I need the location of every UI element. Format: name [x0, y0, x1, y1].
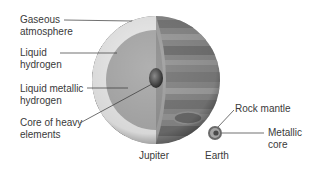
- label-liquid-hydrogen: Liquidhydrogen: [20, 47, 62, 71]
- label-rock-mantle: Rock mantle: [235, 103, 291, 115]
- label-earth: Earth: [205, 150, 229, 162]
- label-jupiter: Jupiter: [139, 150, 169, 162]
- jupiter-planet: [90, 14, 222, 146]
- jupiter-core: [149, 68, 163, 88]
- label-gaseous-atmosphere: Gaseousatmosphere: [20, 14, 73, 38]
- label-liquid-metallic-hydrogen: Liquid metallichydrogen: [20, 83, 83, 107]
- earth-planet: [208, 126, 222, 140]
- label-metallic-core: Metalliccore: [268, 127, 302, 151]
- label-core-heavy-elements: Core of heavyelements: [20, 117, 82, 141]
